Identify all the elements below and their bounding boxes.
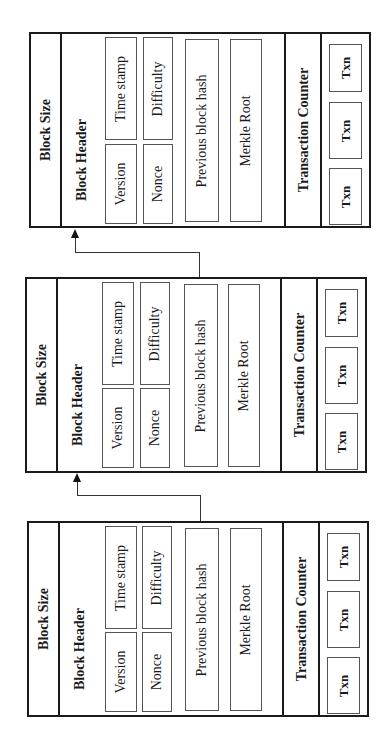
difficulty-label: Difficulty — [150, 61, 166, 116]
previous-block-hash-label: Previous block hash — [194, 74, 210, 187]
nonce-field: Nonce — [142, 632, 172, 712]
difficulty-field: Difficulty — [140, 282, 170, 385]
block-header-label: Block Header — [72, 608, 88, 690]
difficulty-field: Difficulty — [143, 37, 173, 140]
txn-box: Txn — [325, 289, 358, 337]
block-header-label-area: Block Header — [60, 523, 100, 715]
time-stamp-label: Time stamp — [113, 545, 129, 611]
time-stamp-label: Time stamp — [113, 56, 129, 122]
block-3: Block Size Block Header Time stamp Versi… — [27, 521, 369, 717]
block-2: Block Size Block Header Time stamp Versi… — [25, 277, 367, 473]
version-field: Version — [102, 388, 134, 468]
block-header-label: Block Header — [70, 364, 86, 446]
transaction-counter-strip: Transaction Counter — [280, 279, 318, 471]
block-header-label-area: Block Header — [58, 279, 98, 471]
block-size-strip: Block Size — [31, 34, 62, 226]
nonce-field: Nonce — [140, 388, 170, 468]
version-field: Version — [105, 144, 137, 224]
transaction-counter-label: Transaction Counter — [294, 557, 310, 682]
difficulty-label: Difficulty — [147, 306, 163, 361]
merkle-root-field: Merkle Root — [230, 39, 262, 222]
txn-box: Txn — [327, 533, 360, 581]
transaction-counter-strip: Transaction Counter — [282, 523, 320, 715]
connector-line — [199, 252, 200, 279]
txn-box: Txn — [327, 591, 360, 648]
version-label: Version — [113, 163, 129, 206]
block-size-label: Block Size — [38, 99, 54, 161]
txn-label: Txn — [338, 57, 354, 79]
merkle-root-field: Merkle Root — [228, 284, 260, 467]
connector-line — [75, 236, 76, 253]
txn-box: Txn — [329, 44, 362, 92]
time-stamp-field: Time stamp — [102, 282, 134, 385]
previous-block-hash-field: Previous block hash — [185, 528, 219, 711]
previous-block-hash-label: Previous block hash — [193, 319, 209, 432]
block-header-label: Block Header — [74, 119, 90, 201]
previous-block-hash-field: Previous block hash — [185, 39, 219, 222]
txn-label: Txn — [334, 430, 350, 452]
txn-label: Txn — [336, 546, 352, 568]
txn-box: Txn — [325, 413, 358, 470]
time-stamp-field: Time stamp — [105, 37, 137, 140]
merkle-root-label: Merkle Root — [238, 584, 254, 655]
difficulty-label: Difficulty — [149, 550, 165, 605]
transactions-strip: Txn Txn Txn — [320, 34, 369, 226]
txn-box: Txn — [329, 102, 362, 159]
arrow-up-icon — [73, 473, 81, 482]
difficulty-field: Difficulty — [142, 526, 172, 629]
txn-label: Txn — [338, 119, 354, 141]
connector-line — [75, 252, 200, 253]
connector-line — [77, 495, 201, 496]
transactions-strip: Txn Txn Txn — [318, 523, 367, 715]
nonce-label: Nonce — [149, 654, 165, 691]
transactions-strip: Txn Txn Txn — [316, 279, 365, 471]
previous-block-hash-label: Previous block hash — [194, 563, 210, 676]
transaction-counter-strip: Transaction Counter — [284, 34, 322, 226]
version-field: Version — [105, 632, 137, 712]
block-header-label-area: Block Header — [62, 34, 102, 226]
txn-label: Txn — [338, 185, 354, 207]
merkle-root-label: Merkle Root — [238, 95, 254, 166]
merkle-root-label: Merkle Root — [236, 340, 252, 411]
nonce-label: Nonce — [150, 166, 166, 203]
block-size-label: Block Size — [34, 344, 50, 406]
version-label: Version — [113, 651, 129, 694]
txn-box: Txn — [329, 168, 362, 225]
arrow-up-icon — [71, 229, 79, 238]
connector-line — [77, 480, 78, 496]
txn-label: Txn — [336, 674, 352, 696]
time-stamp-field: Time stamp — [105, 526, 137, 629]
version-label: Version — [110, 407, 126, 450]
transaction-counter-label: Transaction Counter — [296, 68, 312, 193]
txn-label: Txn — [334, 302, 350, 324]
time-stamp-label: Time stamp — [110, 301, 126, 367]
txn-box: Txn — [327, 657, 360, 714]
nonce-field: Nonce — [143, 144, 173, 224]
txn-label: Txn — [336, 608, 352, 630]
transaction-counter-label: Transaction Counter — [292, 313, 308, 438]
nonce-label: Nonce — [147, 410, 163, 447]
block-size-strip: Block Size — [29, 523, 60, 715]
block-size-label: Block Size — [36, 588, 52, 650]
txn-box: Txn — [325, 347, 358, 404]
merkle-root-field: Merkle Root — [230, 528, 262, 711]
txn-label: Txn — [334, 364, 350, 386]
previous-block-hash-field: Previous block hash — [184, 284, 218, 467]
connector-line — [200, 495, 201, 523]
block-size-strip: Block Size — [27, 279, 58, 471]
block-1: Block Size Block Header Time stamp Versi… — [29, 32, 371, 228]
